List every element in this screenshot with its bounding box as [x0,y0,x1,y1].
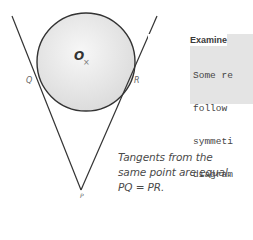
center-mark: × [83,58,90,67]
examiner-line: symmeti [193,136,253,147]
caption-line: same point are equal. [118,165,231,180]
label-r: R [134,76,140,85]
label-p: P [80,192,84,199]
examiner-line: Some re [193,70,253,81]
caption-line: Tangents from the [118,150,231,165]
examiner-line: follow [193,103,253,114]
caption-line: PQ = PR. [118,180,231,195]
examiner-title: Examine [148,34,227,46]
caption: Tangents from the same point are equal. … [118,150,231,195]
label-q: Q [26,76,32,85]
examiner-tip-box: Examine Some re follow symmeti diagram [190,34,253,104]
